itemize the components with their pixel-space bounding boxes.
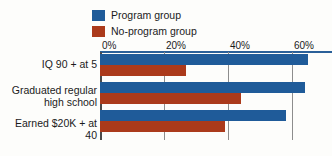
legend-label-program: Program group (111, 10, 181, 21)
chart-legend: Program group No-program group (92, 8, 242, 40)
bar-no-program-earned (100, 121, 225, 132)
bar-chart: Program group No-program group 0% 20% 40… (0, 0, 332, 156)
category-label-earned-line1: Earned $20K + at 40 (15, 117, 97, 141)
bar-no-program-iq (100, 65, 186, 76)
x-tick-label-20: 20% (164, 40, 186, 51)
category-label-iq: IQ 90 + at 5 (1, 58, 97, 70)
legend-swatch-no-program-icon (92, 26, 105, 37)
plot-area (100, 52, 324, 140)
category-label-graduated: Graduated regular high school (1, 84, 97, 108)
category-label-iq-line1: IQ 90 + at 5 (42, 58, 97, 70)
bar-no-program-graduated (100, 93, 241, 104)
y-axis-category-labels: IQ 90 + at 5 Graduated regular high scho… (0, 52, 97, 140)
legend-item-program: Program group (92, 8, 242, 22)
legend-label-no-program: No-program group (111, 26, 197, 37)
bar-program-earned (100, 110, 286, 121)
x-tick-label-0: 0% (100, 40, 116, 51)
x-tick-label-40: 40% (228, 40, 250, 51)
category-label-graduated-line1: Graduated regular (1, 84, 97, 96)
legend-swatch-program-icon (92, 10, 105, 21)
legend-item-no-program: No-program group (92, 24, 242, 38)
category-label-graduated-line2: high school (1, 96, 97, 108)
bar-program-iq (100, 54, 308, 65)
x-tick-label-60: 60% (292, 40, 314, 51)
gridline-60 (292, 52, 293, 140)
bar-program-graduated (100, 82, 305, 93)
category-label-earned: Earned $20K + at 40 (1, 117, 97, 141)
